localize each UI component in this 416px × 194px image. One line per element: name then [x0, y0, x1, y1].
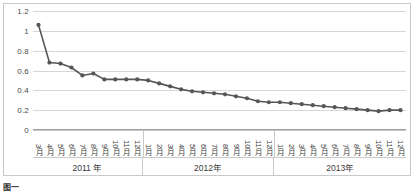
data-point	[58, 61, 62, 65]
chart-frame: 00.20.40.60.811.2 3月4月5月6月7月8月9月10月11月12…	[3, 3, 411, 176]
data-point	[168, 84, 172, 88]
month-tick: 10月	[110, 131, 121, 157]
x-axis-month-labels: 3月4月5月6月7月8月9月10月11月12月1月2月3月4月5月6月7月8月9…	[33, 130, 406, 157]
month-tick: 5月	[55, 131, 66, 157]
month-label: 12月	[265, 140, 273, 157]
month-tick: 8月	[88, 131, 99, 157]
data-point	[113, 77, 117, 81]
month-tick: 9月	[99, 131, 110, 157]
month-label: 9月	[101, 144, 109, 157]
month-tick: 1月	[274, 131, 285, 157]
month-tick: 9月	[230, 131, 241, 157]
month-label: 6月	[331, 144, 339, 157]
data-point	[267, 100, 271, 104]
month-tick: 11月	[121, 131, 132, 157]
month-tick: 7月	[209, 131, 220, 157]
month-tick: 11月	[384, 131, 395, 157]
y-axis-tick-label: 0.8	[17, 46, 29, 55]
y-axis-tick-label: 0.2	[17, 106, 29, 115]
data-point	[124, 77, 128, 81]
year-label-cell: 2012年	[143, 158, 275, 176]
month-tick: 6月	[329, 131, 340, 157]
month-label: 3月	[35, 144, 43, 157]
y-axis-tick-label: 0	[24, 126, 29, 135]
month-label: 1月	[276, 144, 284, 157]
data-point	[190, 89, 194, 93]
year-label-cell: 2011 年	[33, 158, 143, 176]
data-point	[256, 99, 260, 103]
data-point	[223, 92, 227, 96]
data-point	[300, 102, 304, 106]
month-label: 1月	[144, 144, 152, 157]
month-tick: 2月	[154, 131, 165, 157]
y-axis-tick-label: 0.6	[17, 66, 29, 75]
month-tick: 12月	[132, 131, 143, 157]
data-point	[157, 81, 161, 85]
month-tick: 8月	[219, 131, 230, 157]
month-label: 5月	[57, 144, 65, 157]
data-point	[146, 78, 150, 82]
month-label: 12月	[133, 140, 141, 157]
month-tick: 2月	[285, 131, 296, 157]
data-point	[355, 107, 359, 111]
month-tick: 4月	[307, 131, 318, 157]
data-point	[135, 77, 139, 81]
month-tick: 5月	[318, 131, 329, 157]
month-label: 10月	[112, 140, 120, 157]
data-point	[212, 91, 216, 95]
data-point	[234, 94, 238, 98]
month-label: 7月	[210, 144, 218, 157]
month-label: 9月	[364, 144, 372, 157]
data-point	[387, 108, 391, 112]
month-label: 2月	[287, 144, 295, 157]
month-label: 3月	[166, 144, 174, 157]
month-tick: 10月	[241, 131, 252, 157]
figure-caption: 图一	[3, 179, 413, 193]
month-tick: 11月	[252, 131, 263, 157]
data-point	[47, 60, 51, 64]
month-tick: 4月	[176, 131, 187, 157]
data-point	[179, 87, 183, 91]
month-tick: 5月	[187, 131, 198, 157]
month-tick: 8月	[351, 131, 362, 157]
data-point	[36, 23, 40, 27]
month-tick: 6月	[66, 131, 77, 157]
month-tick: 4月	[44, 131, 55, 157]
month-label: 11月	[254, 140, 262, 157]
y-axis: 00.20.40.60.811.2	[4, 4, 33, 130]
plot-area	[33, 11, 406, 130]
month-label: 10月	[243, 140, 251, 157]
caption-tag: 图一	[3, 181, 19, 192]
month-label: 8月	[353, 144, 361, 157]
month-tick: 7月	[340, 131, 351, 157]
data-point	[376, 109, 380, 113]
x-axis-year-labels: 2011 年2012年2013年	[33, 157, 406, 176]
data-point	[245, 96, 249, 100]
data-point	[289, 101, 293, 105]
data-point	[366, 108, 370, 112]
month-label: 9月	[232, 144, 240, 157]
year-group-separator	[143, 131, 144, 157]
month-tick: 3月	[296, 131, 307, 157]
month-tick: 3月	[165, 131, 176, 157]
month-label: 3月	[298, 144, 306, 157]
figure-container: 00.20.40.60.811.2 3月4月5月6月7月8月9月10月11月12…	[0, 0, 416, 194]
month-label: 4月	[177, 144, 185, 157]
month-tick: 9月	[362, 131, 373, 157]
month-tick: 10月	[373, 131, 384, 157]
month-label: 12月	[397, 140, 405, 157]
year-group-separator	[274, 131, 275, 157]
month-label: 6月	[68, 144, 76, 157]
data-point	[69, 65, 73, 69]
month-label: 4月	[46, 144, 54, 157]
month-label: 5月	[188, 144, 196, 157]
month-label: 2月	[155, 144, 163, 157]
data-point	[322, 104, 326, 108]
year-label-cell: 2013年	[274, 158, 406, 176]
data-point	[80, 73, 84, 77]
data-point	[333, 105, 337, 109]
month-label: 11月	[386, 140, 394, 157]
month-label: 7月	[342, 144, 350, 157]
y-axis-tick-label: 0.4	[17, 86, 29, 95]
data-point	[311, 103, 315, 107]
